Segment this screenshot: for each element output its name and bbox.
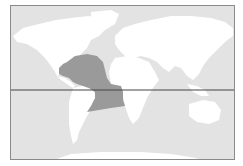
world-map xyxy=(10,5,235,160)
land-antarctica xyxy=(51,152,201,160)
land-australia xyxy=(189,100,221,124)
land-south-america xyxy=(69,86,97,144)
map-canvas xyxy=(11,6,235,160)
